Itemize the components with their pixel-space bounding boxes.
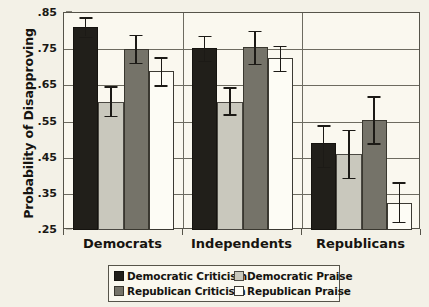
error-bar-cap-lower	[155, 85, 168, 86]
gridline	[64, 49, 419, 50]
error-bar-cap-lower	[79, 37, 92, 38]
error-bar-line	[85, 17, 86, 36]
error-bar-cap-lower	[317, 167, 330, 168]
error-bar-cap-lower	[249, 64, 262, 65]
error-bar-cap-lower	[198, 61, 211, 62]
y-axis-tick-label: .65	[17, 78, 57, 91]
error-bar-cap-upper	[317, 125, 330, 126]
y-axis-tick-label: .55	[17, 114, 57, 127]
y-axis-tick-label: .45	[17, 150, 57, 163]
error-bar-cap-upper	[249, 31, 262, 32]
error-bar-line	[280, 46, 281, 71]
error-bar-cap-lower	[223, 114, 236, 115]
bar	[268, 58, 293, 230]
error-bar-line	[229, 87, 230, 114]
x-axis-tick-label: Democrats	[58, 236, 188, 251]
legend-row: Democratic Criticism Democratic Praise	[114, 268, 335, 283]
legend-label: Democratic Praise	[247, 270, 352, 282]
chart-legend: Democratic Criticism Democratic Praise R…	[108, 265, 340, 302]
error-bar-cap-upper	[198, 36, 211, 37]
legend-swatch-icon	[114, 286, 124, 296]
bar	[98, 102, 123, 230]
x-axis-tick-mark	[182, 229, 183, 235]
y-axis-tick-label: .35	[17, 186, 57, 199]
y-axis-tick-label: .25	[17, 223, 57, 236]
bar	[149, 71, 174, 230]
error-bar-line	[161, 57, 162, 85]
error-bar-line	[204, 36, 205, 61]
error-bar-cap-upper	[342, 130, 355, 131]
legend-label: Republican Praise	[247, 285, 351, 297]
plot-area	[63, 12, 420, 229]
error-bar-cap-lower	[274, 71, 287, 72]
legend-swatch-icon	[234, 286, 244, 296]
x-axis-tick-mark	[301, 229, 302, 235]
x-axis-tick-mark	[420, 229, 421, 235]
chart-figure: Probability of Disapproving .85.75.65.55…	[0, 0, 429, 307]
error-bar-line	[135, 35, 136, 63]
error-bar-cap-lower	[104, 116, 117, 117]
legend-label: Republican Criticism	[127, 285, 245, 297]
legend-item-republican-criticism: Republican Criticism	[114, 285, 234, 297]
error-bar-line	[373, 96, 374, 143]
error-bar-cap-lower	[368, 143, 381, 144]
error-bar-cap-lower	[130, 63, 143, 64]
legend-row: Republican Criticism Republican Praise	[114, 283, 335, 298]
error-bar-line	[110, 86, 111, 116]
bar	[124, 49, 149, 230]
bar	[192, 48, 217, 230]
bar	[243, 47, 268, 230]
error-bar-cap-upper	[155, 57, 168, 58]
error-bar-cap-upper	[79, 17, 92, 18]
legend-swatch-icon	[234, 271, 244, 281]
error-bar-cap-upper	[368, 96, 381, 97]
group-separator	[302, 13, 303, 228]
error-bar-cap-upper	[104, 86, 117, 87]
error-bar-cap-upper	[223, 87, 236, 88]
legend-swatch-icon	[114, 271, 124, 281]
error-bar-line	[323, 125, 324, 167]
x-axis-tick-mark	[63, 229, 64, 235]
x-axis-tick-label: Republicans	[296, 236, 426, 251]
error-bar-cap-lower	[393, 222, 406, 223]
legend-item-republican-praise: Republican Praise	[234, 285, 351, 297]
bar	[217, 102, 242, 230]
legend-label: Democratic Criticism	[127, 270, 247, 282]
y-axis-tick-label: .75	[17, 42, 57, 55]
error-bar-cap-upper	[274, 46, 287, 47]
legend-item-democratic-criticism: Democratic Criticism	[114, 270, 234, 282]
legend-item-democratic-praise: Democratic Praise	[234, 270, 352, 282]
error-bar-cap-lower	[342, 178, 355, 179]
error-bar-cap-upper	[130, 35, 143, 36]
error-bar-cap-upper	[393, 182, 406, 183]
error-bar-line	[348, 130, 349, 178]
bar	[73, 27, 98, 230]
error-bar-line	[399, 182, 400, 222]
group-separator	[183, 13, 184, 228]
y-axis-tick-label: .85	[17, 6, 57, 19]
x-axis-tick-label: Independents	[177, 236, 307, 251]
error-bar-line	[254, 31, 255, 64]
